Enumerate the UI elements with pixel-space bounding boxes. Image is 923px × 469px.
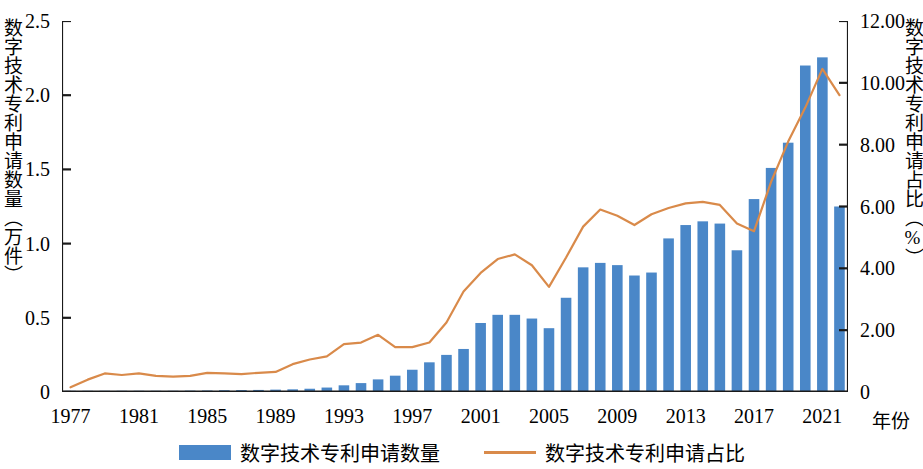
bar — [492, 315, 503, 392]
x-axis-title: 年份 — [872, 406, 910, 433]
y-axis-left-tick-label: 1.5 — [0, 159, 50, 179]
bar — [544, 328, 555, 392]
bar — [646, 273, 657, 392]
bar — [697, 221, 708, 392]
bar — [817, 57, 828, 392]
x-axis-tick-label: 2013 — [666, 406, 706, 426]
plot-svg — [62, 21, 848, 392]
x-axis-tick-label: 1989 — [256, 406, 296, 426]
legend-label-bars: 数字技术专利申请数量 — [240, 438, 440, 467]
legend-bar-swatch-icon — [179, 445, 231, 460]
x-axis-tick-label: 1981 — [119, 406, 159, 426]
bar — [458, 349, 469, 392]
bar — [834, 207, 845, 393]
chart-figure: 数字技术专利申请数量（万件） 数字技术专利申请占比（%） 年份 00.51.01… — [0, 0, 923, 469]
bar — [510, 315, 521, 392]
legend-line-swatch-icon — [484, 451, 536, 454]
bar — [595, 263, 606, 392]
bar — [680, 225, 691, 392]
bar — [475, 323, 486, 392]
bar — [407, 370, 418, 392]
bar — [732, 250, 743, 392]
y-axis-right-title: 数字技术专利申请占比（%） — [903, 18, 922, 398]
bar — [783, 143, 794, 392]
bar — [663, 238, 674, 392]
plot-area — [62, 21, 848, 392]
bar — [766, 168, 777, 392]
x-axis-tick-label: 2009 — [597, 406, 637, 426]
y-axis-left-title: 数字技术专利申请数量（万件） — [2, 18, 21, 398]
y-axis-left-tick-label: 0.5 — [0, 308, 50, 328]
y-axis-left-tick-label: 1.0 — [0, 234, 50, 254]
bar — [612, 265, 623, 392]
axis-lines — [62, 21, 848, 392]
bar — [424, 362, 435, 392]
x-axis-tick-label: 1977 — [51, 406, 91, 426]
bar — [629, 276, 640, 392]
y-axis-right-tick-label: 0 — [860, 382, 870, 402]
x-axis-tick-label: 1985 — [187, 406, 227, 426]
y-axis-left-tick-label: 0 — [0, 382, 50, 402]
bar — [578, 267, 589, 392]
y-axis-right-tick-label: 6.00 — [860, 197, 895, 217]
legend-item-line: 数字技术专利申请占比 — [484, 438, 745, 467]
legend-label-line: 数字技术专利申请占比 — [545, 438, 745, 467]
bar — [561, 298, 572, 392]
y-axis-right-tick-label: 4.00 — [860, 258, 895, 278]
x-axis-tick-label: 2021 — [802, 406, 842, 426]
bar — [441, 355, 452, 392]
bar — [373, 379, 384, 392]
x-axis-tick-label: 2017 — [734, 406, 774, 426]
x-axis-tick-label: 2005 — [529, 406, 569, 426]
bar — [390, 376, 401, 392]
bar — [527, 319, 538, 392]
chart-legend: 数字技术专利申请数量 数字技术专利申请占比 — [0, 436, 923, 469]
x-axis-tick-label: 2001 — [461, 406, 501, 426]
y-axis-right-tick-label: 10.00 — [860, 73, 905, 93]
x-axis-tick-label: 1993 — [324, 406, 364, 426]
x-axis-tick-label: 1997 — [392, 406, 432, 426]
bar — [715, 224, 726, 392]
bar-series — [65, 57, 845, 392]
y-axis-right-tick-label: 2.00 — [860, 320, 895, 340]
y-axis-right-tick-label: 8.00 — [860, 135, 895, 155]
legend-item-bars: 数字技术专利申请数量 — [179, 438, 440, 467]
y-axis-left-tick-label: 2.0 — [0, 85, 50, 105]
y-axis-right-tick-label: 12.00 — [860, 11, 905, 31]
y-axis-left-tick-label: 2.5 — [0, 11, 50, 31]
